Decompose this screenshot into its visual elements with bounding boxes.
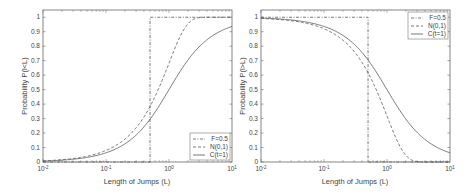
y-tick-label: 0.2 (249, 129, 258, 136)
y-tick-label: 0.8 (31, 42, 40, 49)
x-axis-label: Length of Jumps (L) (322, 177, 389, 186)
x-tick-label: 100 (382, 165, 392, 173)
y-axis-label: Probability P(l<L) (20, 57, 29, 115)
x-tick-label: 100 (164, 165, 174, 173)
x-tick-label: 10-1 (100, 165, 112, 173)
legend-label: N(0,1) (428, 22, 446, 30)
y-tick-label: 0.7 (31, 57, 40, 64)
ccdf-plot: 00.10.20.30.40.50.60.70.80.91 10-210-110… (238, 10, 455, 186)
y-tick-label: 0.5 (249, 86, 258, 93)
x-axis-label: Length of Jumps (L) (104, 177, 171, 186)
y-tick-label: 0.6 (249, 71, 258, 78)
x-tick-label: 10-1 (318, 165, 330, 173)
series-n-0-1--line (261, 18, 450, 162)
y-tick-label: 0.8 (249, 42, 258, 49)
y-tick-label: 0.3 (31, 115, 40, 122)
cdf-plot: 00.10.20.30.40.50.60.70.80.91 10-210-110… (20, 10, 237, 186)
x-tick-label: 101 (445, 165, 455, 173)
y-tick-label: 0.3 (249, 115, 258, 122)
figure: 00.10.20.30.40.50.60.70.80.91 10-210-110… (0, 0, 476, 195)
legend-label: N(0,1) (210, 143, 228, 151)
legend-label: F=0.5 (211, 135, 228, 142)
legend-label: C(t=1) (210, 151, 228, 159)
y-axis-label: Probability P(l>L) (238, 57, 247, 115)
x-tick-label: 10-2 (255, 165, 267, 173)
y-tick-label: 0.6 (31, 71, 40, 78)
y-tick-label: 1 (254, 13, 258, 20)
y-tick-label: 0.5 (31, 86, 40, 93)
y-tick-label: 0.2 (31, 129, 40, 136)
y-tick-label: 0.9 (31, 28, 40, 35)
legend-label: F=0.5 (429, 14, 446, 21)
y-tick-label: 0.1 (31, 144, 40, 151)
x-tick-label: 101 (227, 165, 237, 173)
y-tick-label: 0.4 (31, 100, 40, 107)
y-tick-label: 0.4 (249, 100, 258, 107)
x-tick-label: 10-2 (37, 165, 49, 173)
legend-label: C(t=1) (428, 30, 446, 38)
y-tick-label: 1 (36, 13, 40, 20)
legend: F=0.5N(0,1)C(t=1) (408, 12, 448, 39)
y-tick-label: 0.7 (249, 57, 258, 64)
y-tick-label: 0.9 (249, 28, 258, 35)
legend: F=0.5N(0,1)C(t=1) (190, 133, 230, 160)
y-tick-label: 0.1 (249, 144, 258, 151)
